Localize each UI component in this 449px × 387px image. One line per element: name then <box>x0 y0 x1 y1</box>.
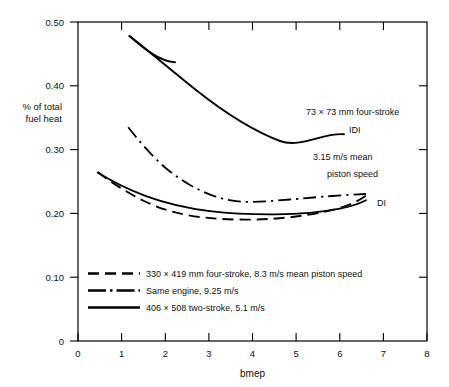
y-tick-label-020: 0.20 <box>46 208 65 219</box>
x-tick-label-2: 2 <box>163 348 168 359</box>
legend-label-1: Same engine, 9.25 m/s <box>146 286 239 296</box>
y-axis-ticks-right <box>419 86 427 277</box>
annotation-piston-speed-line1: 3.15 m/s mean <box>313 152 373 162</box>
x-axis-title: bmep <box>240 368 265 379</box>
y-axis-title-line2: fuel heat <box>26 113 63 124</box>
x-tick-label-5: 5 <box>293 348 298 359</box>
annotation-idi-engine-note: 73 × 73 mm four-stroke <box>306 107 399 117</box>
x-tick-label-0: 0 <box>75 348 80 359</box>
x-tick-label-7: 7 <box>381 348 386 359</box>
y-tick-label-010: 0.10 <box>46 272 65 283</box>
chart-figure: 0 0.10 0.20 0.30 0.40 0.50 0 1 2 3 4 5 6… <box>0 0 449 387</box>
x-axis-ticks-top <box>122 22 384 30</box>
legend-label-2: 406 × 508 two-stroke, 5.1 m/s <box>146 303 265 313</box>
series-line-406x508 <box>98 173 366 215</box>
x-tick-label-4: 4 <box>250 348 255 359</box>
legend-label-0: 330 × 419 mm four-stroke, 8.3 m/s mean p… <box>146 269 362 279</box>
x-axis-ticks-bottom <box>78 333 427 341</box>
x-tick-label-1: 1 <box>119 348 124 359</box>
y-tick-label-030: 0.30 <box>46 144 65 155</box>
y-axis-ticks-left <box>70 22 78 341</box>
x-tick-label-3: 3 <box>206 348 211 359</box>
annotation-piston-speed-line2: piston speed <box>327 169 378 179</box>
series-line-idi <box>130 36 176 62</box>
y-tick-label-0: 0 <box>59 336 64 347</box>
y-tick-label-040: 0.40 <box>46 80 65 91</box>
legend: 330 × 419 mm four-stroke, 8.3 m/s mean p… <box>88 269 362 313</box>
x-tick-label-8: 8 <box>424 348 429 359</box>
annotation-idi-curve-label: IDI <box>349 125 361 135</box>
x-tick-label-6: 6 <box>337 348 342 359</box>
chart-svg: 0 0.10 0.20 0.30 0.40 0.50 0 1 2 3 4 5 6… <box>0 0 449 387</box>
plot-frame <box>78 22 427 341</box>
annotation-di-curve-label: DI <box>377 198 386 208</box>
y-tick-label-050: 0.50 <box>46 17 65 28</box>
y-axis-title-line1: % of total <box>22 101 62 112</box>
series-line-idi-main <box>130 36 345 143</box>
series-line-same-engine <box>128 127 366 202</box>
